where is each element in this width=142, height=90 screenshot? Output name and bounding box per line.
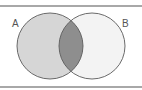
set-b-label: B <box>122 19 129 29</box>
bottom-rule <box>0 86 142 88</box>
set-a-label: A <box>12 19 19 29</box>
venn-diagram <box>0 0 142 90</box>
